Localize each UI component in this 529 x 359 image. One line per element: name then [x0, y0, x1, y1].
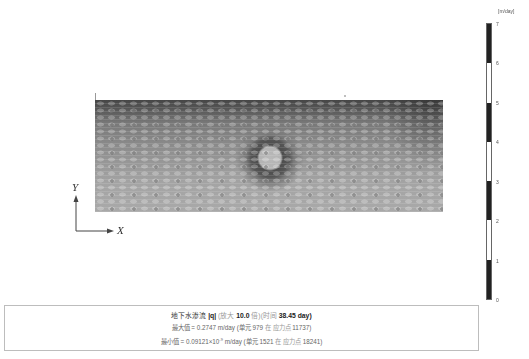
max-point-label: 应力点: [273, 324, 291, 331]
min-value-line: 最小值 = 0.09121×10-9 m/day (单元 1521 在 应力点 …: [5, 334, 478, 348]
title-quantity-symbol: |q|: [208, 312, 216, 319]
title-time-value: 38.45 day: [279, 312, 310, 319]
colorbar-tick: 5: [496, 100, 499, 106]
colorbar-tick: 7: [496, 21, 499, 27]
max-point: 11737): [292, 324, 311, 331]
min-at: 在: [275, 338, 281, 345]
colorbar-tick: 3: [496, 179, 499, 185]
min-element: 1521: [259, 338, 273, 345]
seepage-contour-field: [95, 100, 443, 212]
title-quantity-name: 地下水渗流: [171, 312, 206, 319]
max-element-prefix: (单元: [237, 324, 251, 331]
title-scale-value: 10.0: [236, 312, 249, 319]
mesh-node-dots: [95, 100, 443, 212]
colorbar-tick: 1: [496, 258, 499, 264]
colorbar-tick: 0: [496, 297, 499, 303]
plot-marker-dot: [344, 95, 346, 97]
x-axis-label: X: [117, 224, 124, 236]
colorbar-segment: [487, 142, 491, 181]
colorbar-segment: [487, 24, 491, 63]
colorbar-segment: [487, 260, 491, 299]
colorbar-tick: 2: [496, 218, 499, 224]
min-element-prefix: (单元: [244, 338, 258, 345]
y-axis-label: Y: [72, 181, 78, 193]
result-info-box: 地下水渗流 |q| (放大 10.0 倍)(时间 38.45 day) 最大值 …: [4, 305, 479, 351]
coordinate-axes-icon: [0, 0, 140, 245]
title-time-prefix: (时间: [261, 312, 277, 319]
result-title: 地下水渗流 |q| (放大 10.0 倍)(时间 38.45 day): [5, 310, 478, 322]
colorbar-unit: [m/day]: [498, 8, 514, 14]
title-scale-suffix: 倍): [251, 312, 260, 319]
min-point: 18241): [303, 338, 323, 345]
colorbar: [486, 23, 492, 300]
colorbar-segment: [487, 103, 491, 142]
max-element: 979: [253, 324, 264, 331]
colorbar-segment: [487, 220, 491, 259]
min-value-exponent: -9: [219, 337, 223, 342]
min-value-mantissa: = 0.09121×10: [180, 338, 219, 345]
title-time-suffix: ): [309, 312, 311, 319]
colorbar-tick: 4: [496, 139, 499, 145]
colorbar-tick: 6: [496, 60, 499, 66]
max-at: 在: [265, 324, 271, 331]
colorbar-segment: [487, 181, 491, 220]
min-label: 最小值: [161, 338, 179, 345]
title-scale-prefix: (放大: [218, 312, 234, 319]
min-point-label: 应力点: [283, 338, 301, 345]
colorbar-segment: [487, 63, 491, 102]
min-value-unit: m/day: [225, 338, 242, 345]
max-label: 最大值: [172, 324, 190, 331]
max-value: = 0.2747 m/day: [191, 324, 235, 331]
max-value-line: 最大值 = 0.2747 m/day (单元 979 在 应力点 11737): [5, 322, 478, 334]
